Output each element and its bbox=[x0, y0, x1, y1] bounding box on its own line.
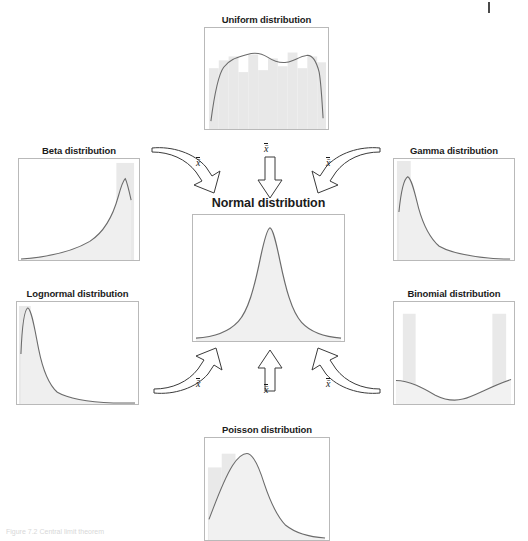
xbar-bottom-left-label: x̄ bbox=[196, 378, 200, 389]
panel-title-uniform: Uniform distribution bbox=[204, 14, 329, 25]
xbar-top-left: x̄ bbox=[196, 157, 200, 168]
panel-normal: Normal distribution bbox=[192, 196, 345, 342]
chart-uniform-svg bbox=[205, 28, 328, 129]
xbar-top-center: x̄ bbox=[264, 143, 268, 154]
xbar-bottom-right-label: x̄ bbox=[326, 378, 330, 389]
chart-beta bbox=[18, 158, 140, 261]
chart-beta-svg bbox=[19, 159, 139, 260]
page-edge-mark bbox=[488, 2, 490, 13]
arrow-top-right-svg bbox=[300, 143, 382, 195]
xbar-top-right-label: x̄ bbox=[326, 157, 330, 168]
chart-normal bbox=[192, 214, 345, 342]
arrow-bottom-right bbox=[300, 346, 382, 398]
lognormal-fill bbox=[21, 308, 135, 404]
panel-beta: Beta distribution bbox=[18, 145, 140, 261]
arrow-top-center-svg bbox=[256, 155, 284, 200]
arrow-bottom-left-svg bbox=[152, 346, 234, 398]
chart-lognormal bbox=[16, 301, 139, 405]
panel-lognormal: Lognormal distribution bbox=[16, 288, 139, 405]
panel-title-beta: Beta distribution bbox=[18, 145, 140, 156]
chart-uniform bbox=[204, 27, 329, 130]
xbar-top-center-label: x̄ bbox=[264, 143, 268, 154]
arrow-top-center bbox=[256, 155, 284, 200]
panel-poisson: Poisson distribution bbox=[204, 424, 330, 541]
panel-title-binomial: Binomial distribution bbox=[393, 288, 515, 299]
chart-lognormal-svg bbox=[17, 302, 138, 404]
chart-binomial-svg bbox=[394, 302, 514, 404]
panel-title-gamma: Gamma distribution bbox=[393, 145, 515, 156]
panel-binomial: Binomial distribution bbox=[393, 288, 515, 405]
arrow-top-left-svg bbox=[150, 143, 232, 195]
xbar-top-right: x̄ bbox=[326, 157, 330, 168]
arrow-top-right bbox=[300, 143, 382, 195]
xbar-bottom-right: x̄ bbox=[326, 378, 330, 389]
chart-poisson-svg bbox=[205, 438, 329, 540]
arrow-bottom-center bbox=[256, 348, 284, 393]
xbar-bottom-left: x̄ bbox=[196, 378, 200, 389]
panel-title-poisson: Poisson distribution bbox=[204, 424, 330, 435]
normal-fill bbox=[196, 228, 341, 341]
panel-uniform: Uniform distribution bbox=[204, 14, 329, 130]
arrow-top-left bbox=[150, 143, 232, 195]
xbar-bottom-center-label: x̄ bbox=[264, 384, 268, 395]
arrow-bottom-right-svg bbox=[300, 346, 382, 398]
chart-binomial bbox=[393, 301, 515, 405]
chart-poisson bbox=[204, 437, 330, 541]
arrow-bottom-left bbox=[152, 346, 234, 398]
gamma-fill bbox=[399, 177, 510, 260]
xbar-top-left-label: x̄ bbox=[196, 157, 200, 168]
chart-gamma-svg bbox=[394, 159, 514, 260]
xbar-bottom-center: x̄ bbox=[264, 384, 268, 395]
arrow-bottom-center-svg bbox=[256, 348, 284, 393]
figure-caption: Figure 7.2 Central limit theorem bbox=[6, 528, 306, 538]
chart-normal-svg bbox=[193, 215, 344, 341]
panel-gamma: Gamma distribution bbox=[393, 145, 515, 261]
panel-title-lognormal: Lognormal distribution bbox=[16, 288, 139, 299]
chart-gamma bbox=[393, 158, 515, 261]
